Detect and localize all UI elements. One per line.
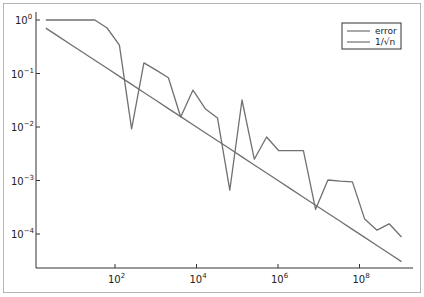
series-inv-sqrt-line: [46, 28, 402, 262]
y-tick-label: 10−2: [11, 120, 34, 133]
series-error-line: [46, 20, 402, 237]
series-lines: [46, 20, 402, 262]
y-tick-label: 100: [15, 13, 32, 26]
y-tick-label: 10−1: [11, 67, 34, 80]
legend-label-error: error: [375, 26, 397, 36]
legend-label-inv-sqrt: 1/√n: [375, 37, 395, 47]
log-log-chart: 102104106108 10010−110−210−310−4 error 1…: [0, 0, 424, 297]
legend: error 1/√n: [342, 23, 401, 49]
x-tick-label: 108: [353, 272, 370, 285]
y-tick-label: 10−3: [11, 174, 34, 187]
axes: [36, 12, 413, 268]
x-ticks: 102104106108: [108, 264, 370, 285]
x-tick-label: 102: [108, 272, 125, 285]
x-tick-label: 106: [271, 272, 289, 285]
x-tick-label: 104: [190, 272, 208, 285]
y-tick-label: 10−4: [11, 227, 35, 240]
